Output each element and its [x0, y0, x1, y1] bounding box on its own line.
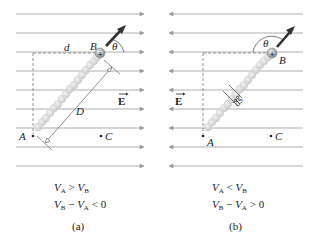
panel-a: + B θ d D A C E	[16, 12, 144, 167]
svg-text:+: +	[269, 49, 274, 59]
direction-arrow	[277, 26, 295, 47]
caption-a: (a)	[72, 220, 84, 232]
charge-path-beads	[204, 53, 272, 131]
label-B: B	[90, 40, 97, 52]
panel-b: ds + B θ A C E	[169, 12, 303, 167]
field-line	[169, 12, 303, 15]
equation-b-2: VB − VA > 0	[212, 198, 264, 212]
svg-text:E: E	[118, 95, 125, 107]
label-A: A	[206, 136, 214, 148]
field-line	[16, 88, 144, 91]
field-line	[16, 31, 144, 34]
point-C-dot	[270, 135, 273, 138]
equation-b-1: VA < VB	[212, 181, 247, 195]
field-line	[16, 12, 144, 15]
charge-path-beads	[34, 53, 101, 131]
field-line	[169, 107, 303, 110]
point-C-dot	[100, 135, 103, 138]
svg-text:E: E	[175, 95, 182, 107]
label-A: A	[18, 130, 26, 142]
equation-a-2: VB − VA < 0	[54, 198, 106, 212]
svg-text:+: +	[97, 49, 102, 59]
label-d: d	[64, 41, 70, 53]
diagram-canvas: + B θ d D A C E	[0, 0, 313, 242]
point-A-dot	[202, 135, 205, 138]
label-theta: θ	[263, 37, 269, 49]
point-A-dot	[32, 135, 35, 138]
field-line	[169, 145, 303, 148]
field-line	[169, 69, 303, 72]
equation-a-1: VA > VB	[54, 181, 89, 195]
label-C: C	[275, 130, 283, 142]
field-line	[169, 126, 303, 129]
field-line	[169, 31, 303, 34]
label-B: B	[279, 54, 286, 66]
field-vector-label-E: E	[118, 93, 129, 108]
field-line	[16, 164, 144, 167]
field-vector-label-E: E	[175, 93, 186, 108]
field-line	[169, 164, 303, 167]
label-C: C	[105, 130, 113, 142]
label-theta: θ	[112, 40, 118, 52]
positive-charge: +	[267, 48, 277, 59]
caption-b: (b)	[229, 220, 242, 232]
field-lines-right	[16, 12, 144, 167]
label-D: D	[75, 105, 84, 117]
field-line	[16, 145, 144, 148]
